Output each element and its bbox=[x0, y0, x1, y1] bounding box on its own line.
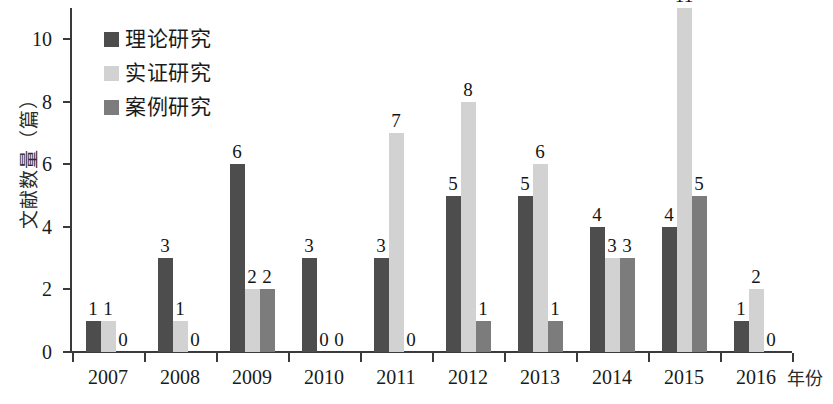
legend-item: 案例研究 bbox=[104, 90, 211, 124]
legend-label: 理论研究 bbox=[125, 29, 211, 50]
bar-value-label: 11 bbox=[670, 0, 698, 5]
x-axis-tick-label: 2016 bbox=[716, 367, 796, 387]
chart-legend: 理论研究实证研究案例研究 bbox=[104, 22, 211, 124]
x-axis-tick-mark bbox=[792, 353, 794, 362]
bar-value-label: 3 bbox=[613, 236, 641, 255]
bar-value-label: 8 bbox=[454, 80, 482, 99]
y-axis-tick-mark bbox=[63, 38, 72, 40]
bar-group: 622 bbox=[230, 8, 275, 352]
y-axis-tick-mark bbox=[63, 288, 72, 290]
bar-value-label: 0 bbox=[109, 330, 137, 349]
x-axis-tick-mark bbox=[144, 353, 146, 362]
x-axis-tick-label: 2014 bbox=[572, 367, 652, 387]
bar-value-label: 7 bbox=[382, 111, 410, 130]
y-axis-tick-label: 0 bbox=[12, 342, 52, 362]
bar bbox=[734, 321, 749, 352]
y-axis-tick-mark bbox=[63, 351, 72, 353]
bar-group: 4115 bbox=[662, 8, 707, 352]
bar bbox=[548, 321, 563, 352]
bar-value-label: 6 bbox=[223, 142, 251, 161]
bar-group: 120 bbox=[734, 8, 779, 352]
bar bbox=[446, 196, 461, 352]
y-axis-tick-label: 4 bbox=[12, 217, 52, 237]
bar-value-label: 5 bbox=[685, 174, 713, 193]
bar-value-label: 0 bbox=[397, 330, 425, 349]
bar bbox=[230, 164, 245, 352]
x-axis-tick-mark bbox=[576, 353, 578, 362]
bar-value-label: 4 bbox=[583, 205, 611, 224]
y-axis-tick-label: 2 bbox=[12, 279, 52, 299]
x-axis-tick-mark bbox=[720, 353, 722, 362]
legend-swatch-icon bbox=[104, 32, 119, 47]
bar bbox=[374, 258, 389, 352]
bar bbox=[245, 289, 260, 352]
bar-group: 561 bbox=[518, 8, 563, 352]
bar bbox=[605, 258, 620, 352]
bar-value-label: 3 bbox=[151, 236, 179, 255]
bar-group: 433 bbox=[590, 8, 635, 352]
y-axis-tick-mark bbox=[63, 226, 72, 228]
bar-value-label: 0 bbox=[181, 330, 209, 349]
bar-value-label: 6 bbox=[526, 142, 554, 161]
x-axis-tick-mark bbox=[432, 353, 434, 362]
bar-value-label: 1 bbox=[166, 299, 194, 318]
legend-item: 理论研究 bbox=[104, 22, 211, 56]
bar-value-label: 1 bbox=[94, 299, 122, 318]
bar-value-label: 0 bbox=[325, 330, 353, 349]
bar bbox=[260, 289, 275, 352]
y-axis-tick-mark bbox=[63, 163, 72, 165]
x-axis-tick-label: 2008 bbox=[140, 367, 220, 387]
bar bbox=[389, 133, 404, 352]
y-axis-tick-label: 10 bbox=[12, 29, 52, 49]
x-axis-tick-label: 2007 bbox=[68, 367, 148, 387]
legend-label: 实证研究 bbox=[125, 63, 211, 84]
x-axis-tick-mark bbox=[72, 353, 74, 362]
bar bbox=[533, 164, 548, 352]
bar-value-label: 2 bbox=[253, 267, 281, 286]
legend-label: 案例研究 bbox=[125, 97, 211, 118]
x-axis-tick-label: 2012 bbox=[428, 367, 508, 387]
bar-group: 300 bbox=[302, 8, 347, 352]
y-axis-tick-mark bbox=[63, 101, 72, 103]
x-axis-title: 年份 bbox=[787, 370, 833, 389]
x-axis-tick-label: 2015 bbox=[644, 367, 724, 387]
legend-swatch-icon bbox=[104, 66, 119, 81]
bar bbox=[518, 196, 533, 352]
bar bbox=[476, 321, 491, 352]
x-axis-tick-mark bbox=[504, 353, 506, 362]
bar-chart: 文献数量（篇） 0246810 110310622300370581561433… bbox=[0, 0, 833, 404]
bar-group: 370 bbox=[374, 8, 419, 352]
legend-swatch-icon bbox=[104, 100, 119, 115]
bar bbox=[620, 258, 635, 352]
legend-item: 实证研究 bbox=[104, 56, 211, 90]
x-axis-tick-label: 2009 bbox=[212, 367, 292, 387]
bar-group: 581 bbox=[446, 8, 491, 352]
x-axis-tick-mark bbox=[360, 353, 362, 362]
bar-value-label: 2 bbox=[742, 267, 770, 286]
bar-value-label: 1 bbox=[541, 299, 569, 318]
x-axis-tick-label: 2010 bbox=[284, 367, 364, 387]
bar bbox=[86, 321, 101, 352]
x-axis-tick-mark bbox=[216, 353, 218, 362]
bar bbox=[662, 227, 677, 352]
x-axis-tick-mark bbox=[288, 353, 290, 362]
x-axis-tick-mark bbox=[648, 353, 650, 362]
bar-value-label: 0 bbox=[757, 330, 785, 349]
bar-value-label: 1 bbox=[469, 299, 497, 318]
bar bbox=[692, 196, 707, 352]
bar-value-label: 3 bbox=[295, 236, 323, 255]
y-axis-tick-label: 8 bbox=[12, 92, 52, 112]
x-axis-tick-label: 2011 bbox=[356, 367, 436, 387]
x-axis-tick-label: 2013 bbox=[500, 367, 580, 387]
y-axis-tick-label: 6 bbox=[12, 154, 52, 174]
